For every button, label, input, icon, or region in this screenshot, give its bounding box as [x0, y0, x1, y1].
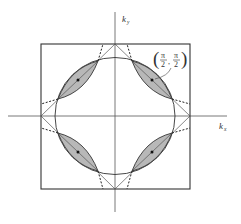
svg-text:x: x	[223, 126, 227, 132]
svg-text:(: (	[153, 48, 159, 70]
svg-text:π: π	[174, 51, 178, 60]
kx-label: k x	[219, 121, 227, 132]
svg-text:2: 2	[174, 60, 178, 69]
svg-text:,: ,	[168, 57, 170, 66]
svg-text:y: y	[126, 19, 130, 25]
annotation-pi-half: ( π 2 , π 2 )	[153, 48, 187, 70]
svg-text:2: 2	[161, 60, 165, 69]
fermi-surface-diagram: ( π 2 , π 2 ) k y k x	[0, 0, 241, 224]
ky-label: k y	[122, 14, 130, 25]
svg-text:): )	[181, 48, 187, 70]
svg-text:π: π	[161, 51, 165, 60]
